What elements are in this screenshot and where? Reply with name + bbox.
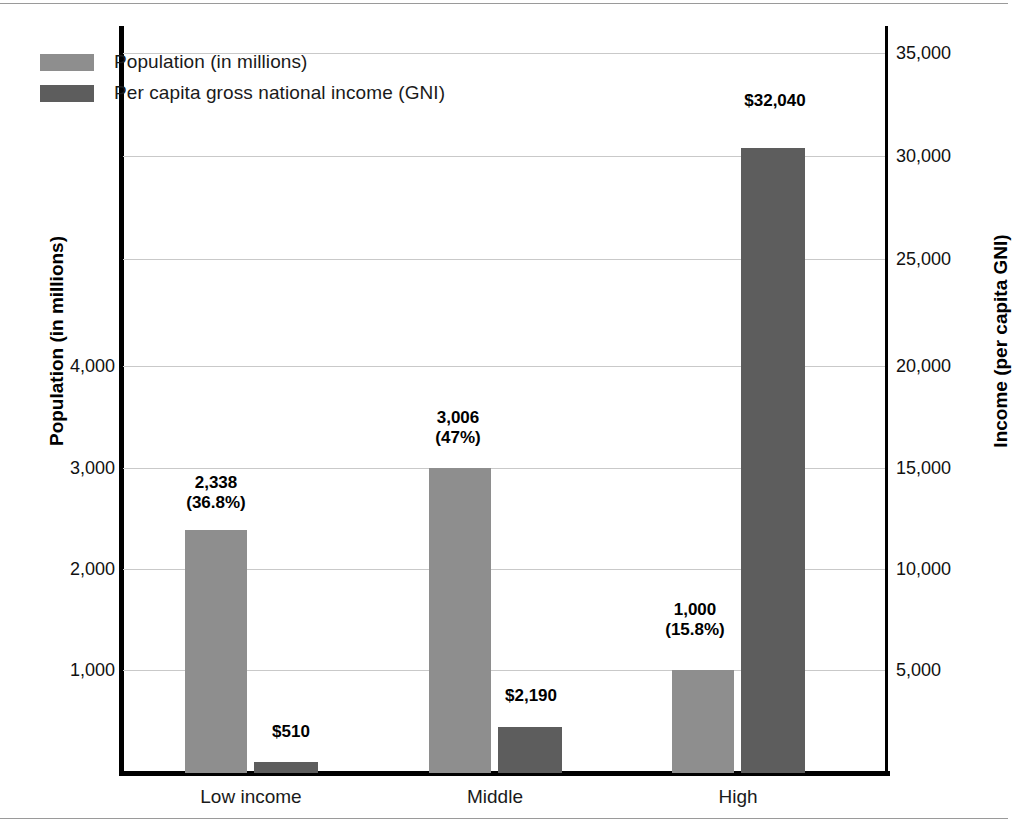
bar-middle-gni[interactable] <box>498 727 562 773</box>
y-tick-right-35000: 35,000 <box>896 43 951 64</box>
y-tick-right-30000: 30,000 <box>896 146 951 167</box>
bar-high-population[interactable] <box>672 670 734 773</box>
bar-value-label-low-gni: $510 <box>223 722 359 742</box>
legend-swatch-icon <box>40 85 94 102</box>
y-axis-right-ticks: 35,00030,00025,00020,00015,00010,0005,00… <box>896 0 996 830</box>
bar-low-gni[interactable] <box>254 762 318 773</box>
legend-item-label: Per capita gross national income (GNI) <box>114 82 445 104</box>
y-tick-left-4000: 4,000 <box>25 356 115 377</box>
plot-area: 2,338 (36.8%)$5103,006 (47%)$2,1901,000 … <box>123 28 885 773</box>
x-axis-label-low-income: Low income <box>151 786 351 808</box>
y-axis-left-ticks: 4,0003,0002,0001,000 <box>20 0 115 830</box>
legend-swatch-icon <box>40 54 94 71</box>
x-axis-label-middle: Middle <box>395 786 595 808</box>
y-tick-left-2000: 2,000 <box>25 559 115 580</box>
y-tick-right-10000: 10,000 <box>896 559 951 580</box>
y-tick-left-1000: 1,000 <box>25 660 115 681</box>
legend-item-population[interactable]: Population (in millions) <box>40 48 445 76</box>
bar-value-label-low-population: 2,338 (36.8%) <box>149 473 283 513</box>
y-tick-right-20000: 20,000 <box>896 356 951 377</box>
chart-legend: Population (in millions)Per capita gross… <box>40 48 445 110</box>
x-axis-label-high: High <box>638 786 838 808</box>
bar-value-label-middle-population: 3,006 (47%) <box>391 408 525 448</box>
y-axis-right-line <box>885 26 888 776</box>
bar-high-gni[interactable] <box>741 148 805 773</box>
y-tick-right-15000: 15,000 <box>896 458 951 479</box>
legend-item-label: Population (in millions) <box>114 51 308 73</box>
legend-item-gni[interactable]: Per capita gross national income (GNI) <box>40 79 445 107</box>
y-tick-left-3000: 3,000 <box>25 458 115 479</box>
y-tick-right-25000: 25,000 <box>896 249 951 270</box>
page-top-rule <box>0 3 1008 4</box>
bar-value-label-high-gni: $32,040 <box>707 91 843 111</box>
bar-middle-population[interactable] <box>429 468 491 773</box>
page-bottom-rule <box>0 818 1008 819</box>
y-tick-right-5000: 5,000 <box>896 660 941 681</box>
bar-value-label-middle-gni: $2,190 <box>463 686 599 706</box>
